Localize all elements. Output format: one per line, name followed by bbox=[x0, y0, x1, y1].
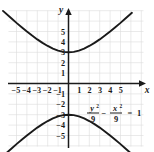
plot-svg: −5−4−3−2−112345 54321−1−2−3−4−5 y x y 2 … bbox=[0, 0, 154, 152]
y-tick-label: −3 bbox=[56, 111, 65, 120]
equation-numerator-1-exponent: 2 bbox=[96, 103, 99, 109]
y-tick-label: −2 bbox=[56, 100, 65, 109]
x-tick-label: 1 bbox=[77, 86, 81, 95]
x-axis-label: x bbox=[144, 85, 150, 95]
x-tick-label: −2 bbox=[43, 86, 52, 95]
y-tick-label: −4 bbox=[56, 121, 65, 130]
equation-numerator-2-var: x bbox=[112, 104, 117, 113]
hyperbola-figure: −5−4−3−2−112345 54321−1−2−3−4−5 y x y 2 … bbox=[0, 0, 154, 152]
x-tick-label: 2 bbox=[88, 86, 92, 95]
y-tick-label: 3 bbox=[61, 48, 65, 57]
equation-equals-sign: = bbox=[128, 109, 133, 118]
x-tick-label: −3 bbox=[32, 86, 41, 95]
x-tick-label: −4 bbox=[22, 86, 31, 95]
y-tick-label: 5 bbox=[61, 28, 65, 37]
equation-denominator-2: 9 bbox=[114, 115, 118, 124]
x-tick-label: 3 bbox=[98, 86, 102, 95]
y-axis-label: y bbox=[58, 5, 64, 15]
x-tick-label: 4 bbox=[108, 86, 112, 95]
y-tick-label: 2 bbox=[61, 59, 65, 68]
equation-numerator-1-var: y bbox=[89, 104, 94, 113]
y-tick-label: 1 bbox=[61, 69, 65, 78]
equation-numerator-2-exponent: 2 bbox=[119, 103, 122, 109]
equation-right-hand-side: 1 bbox=[137, 109, 141, 118]
y-tick-label: −5 bbox=[56, 132, 65, 141]
x-tick-label: 5 bbox=[119, 86, 123, 95]
y-tick-label: −1 bbox=[56, 90, 65, 99]
x-tick-label: −5 bbox=[12, 86, 21, 95]
equation-minus-operator: − bbox=[102, 109, 107, 118]
equation-denominator-1: 9 bbox=[91, 115, 95, 124]
y-tick-label: 4 bbox=[61, 38, 65, 47]
